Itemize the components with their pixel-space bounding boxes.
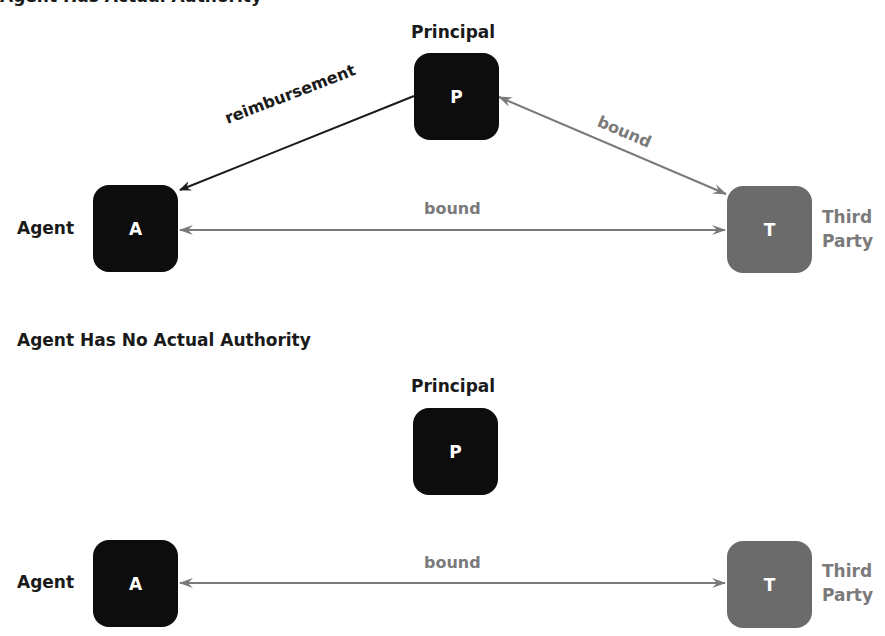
panel-title: Agent Has No Actual Authority <box>17 330 311 350</box>
principal-letter: P <box>450 87 462 107</box>
third-party-label: Third Party <box>822 559 873 607</box>
agent-letter: A <box>129 574 142 594</box>
principal-label: Principal <box>411 22 495 42</box>
principal-letter: P <box>449 442 461 462</box>
bound-label-agent-third: bound <box>424 199 481 218</box>
third-party-label-line2: Party <box>822 229 873 253</box>
third-party-node: T <box>727 186 812 273</box>
third-party-letter: T <box>764 575 776 595</box>
principal-third-party-arrow <box>499 97 726 194</box>
agent-label: Agent <box>17 218 74 238</box>
agent-letter: A <box>129 219 142 239</box>
third-party-label-line1: Third <box>822 205 873 229</box>
principal-node: P <box>413 408 498 495</box>
agent-node: A <box>93 540 178 627</box>
third-party-label-line2: Party <box>822 583 873 607</box>
third-party-node: T <box>727 541 812 628</box>
reimbursement-arrow <box>180 96 414 190</box>
third-party-label-line1: Third <box>822 559 873 583</box>
principal-node: P <box>414 53 499 140</box>
third-party-letter: T <box>764 220 776 240</box>
third-party-label: Third Party <box>822 205 873 253</box>
agent-label: Agent <box>17 572 74 592</box>
bound-label-agent-third: bound <box>424 553 481 572</box>
agent-node: A <box>93 185 178 272</box>
principal-label: Principal <box>411 376 495 396</box>
panel-title: Agent Has Actual Authority <box>0 0 262 6</box>
